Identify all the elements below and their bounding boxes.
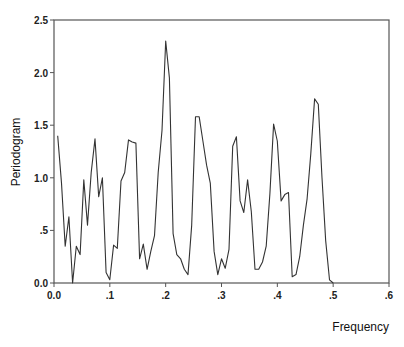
x-tick-label: .1 [106,290,115,301]
y-tick-label: 1.5 [34,120,48,131]
plot-frame [54,20,389,283]
x-axis-ticks: 0.0.1.2.3.4.5.6 [47,283,394,301]
y-tick-label: 2.5 [34,15,48,26]
y-axis-label: Periodogram [9,118,23,187]
x-tick-label: .6 [385,290,394,301]
x-tick-label: .2 [161,290,170,301]
x-tick-label: 0.0 [47,290,61,301]
x-axis-label: Frequency [332,320,389,334]
x-tick-label: .3 [217,290,226,301]
x-tick-label: .4 [273,290,282,301]
periodogram-line [58,41,334,283]
y-tick-label: 0.0 [34,278,48,289]
y-tick-label: 2.0 [34,68,48,79]
periodogram-chart: 0.0.51.01.52.02.5 0.0.1.2.3.4.5.6 Period… [0,0,404,347]
x-tick-label: .5 [329,290,338,301]
y-tick-label: 1.0 [34,173,48,184]
y-axis-ticks: 0.0.51.01.52.02.5 [34,15,54,289]
y-tick-label: .5 [40,225,49,236]
